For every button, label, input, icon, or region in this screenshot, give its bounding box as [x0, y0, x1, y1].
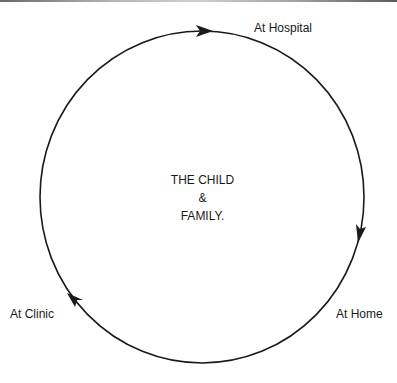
node-label-home: At Home: [336, 307, 383, 321]
center-title: THE CHILD & FAMILY.: [150, 171, 255, 225]
center-title-line-1: THE CHILD: [150, 171, 255, 189]
node-label-hospital: At Hospital: [254, 21, 312, 35]
center-title-line-3: FAMILY.: [150, 207, 255, 225]
center-title-line-2: &: [150, 189, 255, 207]
arrow-up-left-icon: [67, 293, 83, 307]
node-label-clinic: At Clinic: [10, 307, 54, 321]
